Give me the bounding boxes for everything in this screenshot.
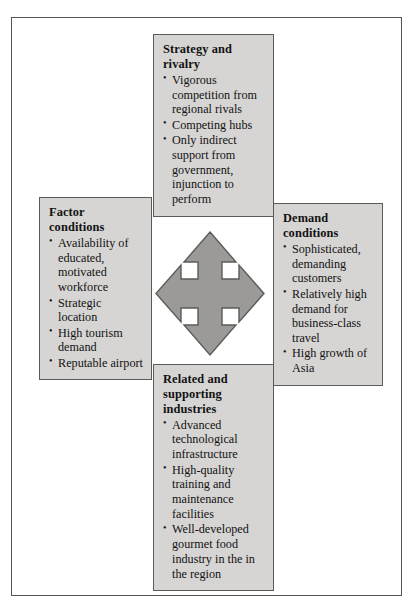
list-item: Strategic location — [49, 296, 143, 326]
list-item: Only indirect support from government, i… — [163, 133, 265, 207]
box-title-demand: Demand conditions — [283, 211, 374, 241]
box-factor-conditions: Factor conditions Availability of educat… — [39, 197, 152, 380]
list-item: Sophisticated, demanding customers — [283, 242, 374, 286]
bullet-list-strategy: Vigorous competition from regional rival… — [163, 73, 265, 207]
box-demand-conditions: Demand conditions Sophisticated, demandi… — [273, 203, 383, 386]
list-item: High tourism demand — [49, 326, 143, 356]
list-item: High growth of Asia — [283, 346, 374, 376]
list-item: Reputable airport — [49, 356, 143, 371]
list-item: Availability of educated, motivated work… — [49, 236, 143, 295]
box-title-factor: Factor conditions — [49, 205, 143, 235]
four-way-arrow-icon — [152, 228, 268, 359]
bullet-list-factor: Availability of educated, motivated work… — [49, 236, 143, 371]
box-strategy-and-rivalry: Strategy and rivalry Vigorous competitio… — [153, 34, 274, 217]
list-item: Relatively high demand for business-clas… — [283, 287, 374, 346]
list-item: Competing hubs — [163, 118, 265, 133]
box-title-strategy: Strategy and rivalry — [163, 42, 265, 72]
box-related-and-supporting-industries: Related and supporting industries Advanc… — [153, 364, 274, 591]
page: Strategy and rivalry Vigorous competitio… — [0, 0, 416, 613]
bullet-list-demand: Sophisticated, demanding customers Relat… — [283, 242, 374, 376]
list-item: Advanced technological infrastructure — [163, 418, 265, 462]
list-item: High-quality training and maintenance fa… — [163, 463, 265, 522]
list-item: Vigorous competition from regional rival… — [163, 73, 265, 117]
box-title-related: Related and supporting industries — [163, 372, 265, 417]
page-frame: Strategy and rivalry Vigorous competitio… — [11, 17, 402, 596]
bullet-list-related: Advanced technological infrastructure Hi… — [163, 418, 265, 582]
list-item: Well-developed gourmet food industry in … — [163, 522, 265, 581]
